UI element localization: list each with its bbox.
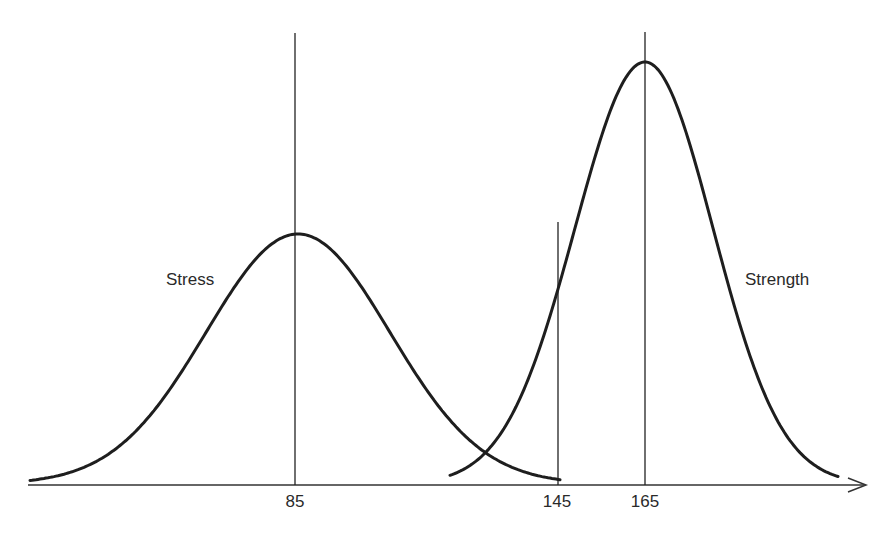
stress-strength-chart [0,0,884,534]
stress-label: Stress [166,270,214,290]
strength-label: Strength [745,270,809,290]
x-tick-85: 85 [286,492,305,512]
x-tick-145: 145 [543,492,571,512]
x-tick-165: 165 [631,492,659,512]
